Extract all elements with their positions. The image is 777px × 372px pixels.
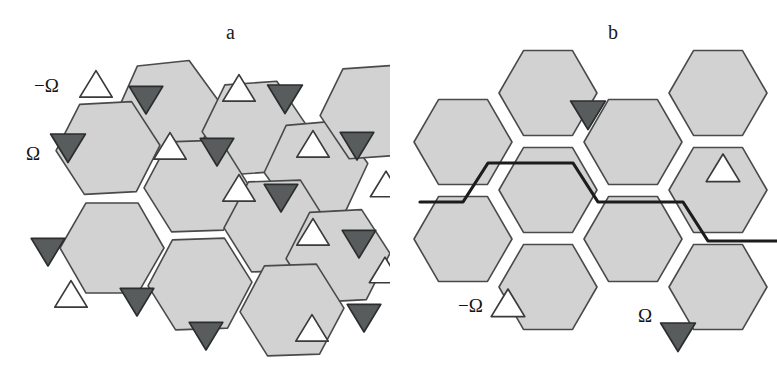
panel-b: −ΩΩ [390,0,777,372]
triangle-marker-plus-omega [661,323,696,352]
panel-a: −ΩΩ [0,0,390,372]
panel-label-b: b [608,22,618,42]
triangle-marker-minus-omega [80,71,112,98]
triangle-marker-plus-omega [31,238,65,266]
hexagon-cell [414,197,512,282]
hexagon-cell [669,148,767,233]
panel-a-legend-group: −ΩΩ [26,75,59,164]
hexagon-cell [414,100,512,185]
hexagon-cell [669,51,767,136]
figure-root: −ΩΩ −ΩΩ a b [0,0,777,372]
hexagon-cell [499,148,597,233]
triangle-marker-minus-omega [370,171,390,197]
hexagon-cell [584,197,682,282]
triangle-marker-plus-omega [347,304,381,332]
hexagon-cell [499,51,597,136]
legend-label-minus-omega: −Ω [34,75,59,96]
panel-a-canvas: −ΩΩ [0,0,390,372]
hexagon-cell [148,238,252,330]
panel-b-canvas: −ΩΩ [390,0,777,372]
triangle-marker-plus-omega [189,322,223,350]
legend-label-plus-omega: Ω [26,143,40,164]
hexagon-cell [60,203,164,293]
hexagon-cell [669,245,767,330]
triangle-marker-plus-omega [120,288,154,316]
legend-label-minus-omega: −Ω [458,295,483,316]
panel-label-a: a [226,22,235,42]
panel-a-hexagon-group [56,61,390,356]
legend-label-plus-omega: Ω [638,305,652,326]
